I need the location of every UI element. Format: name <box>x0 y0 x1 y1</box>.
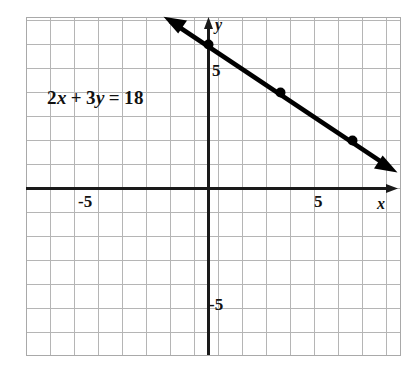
equation-plus-sign: + <box>67 87 86 108</box>
y-axis-label: y <box>215 17 222 33</box>
point-0-6 <box>204 40 214 50</box>
point-3-4 <box>276 88 286 98</box>
graph-figure: 2x+3y=18 x y -5 5 5 -5 <box>0 0 408 373</box>
equation-equals-sign: = <box>105 87 124 108</box>
equation-var-x: x <box>57 87 67 108</box>
equation-var-y: y <box>96 87 105 108</box>
y-tick-label-positive-5: 5 <box>212 62 221 79</box>
equation-label: 2x+3y=18 <box>47 88 144 107</box>
paper-background <box>0 0 408 373</box>
equation-coef-x: 2 <box>47 87 57 108</box>
coordinate-plane-svg <box>0 0 408 373</box>
x-tick-label-positive-5: 5 <box>314 193 323 210</box>
point-6-2 <box>348 136 358 146</box>
x-tick-label-negative-5: -5 <box>78 193 92 210</box>
x-axis-label: x <box>377 196 385 212</box>
equation-coef-y: 3 <box>86 87 96 108</box>
equation-constant: 18 <box>124 87 144 108</box>
y-tick-label-negative-5: -5 <box>209 296 223 313</box>
